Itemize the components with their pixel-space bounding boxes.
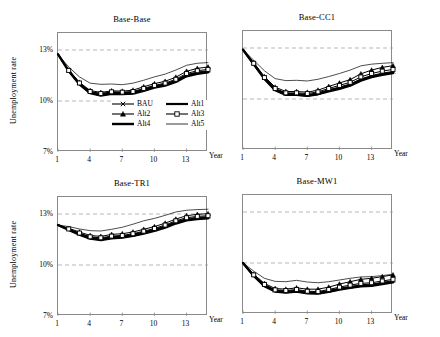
y-tick-label: 13% bbox=[23, 45, 53, 54]
series-marker-alt3 bbox=[284, 91, 288, 95]
series-marker-alt3 bbox=[262, 76, 266, 80]
series-marker-alt3 bbox=[110, 234, 114, 238]
x-tick-label: 1 bbox=[55, 319, 59, 328]
legend-label: Alt3 bbox=[191, 110, 213, 118]
y-tick-label: 7% bbox=[23, 311, 53, 320]
series-marker-alt3 bbox=[152, 83, 156, 87]
series-marker-alt3 bbox=[120, 233, 124, 237]
panel-title: Base-MW1 bbox=[242, 176, 392, 186]
series-marker-alt3 bbox=[370, 72, 374, 76]
series-marker-alt3 bbox=[370, 281, 374, 285]
series-marker-alt3 bbox=[262, 282, 266, 286]
legend-item-alt1[interactable]: Alt1 bbox=[165, 100, 213, 108]
series-marker-alt3 bbox=[67, 68, 71, 72]
legend-label: Alt4 bbox=[137, 120, 159, 128]
plot-canvas bbox=[58, 197, 208, 316]
x-tick-label: 4 bbox=[87, 319, 91, 328]
y-tick-label: 10% bbox=[23, 96, 53, 105]
x-tick-label: 13 bbox=[182, 319, 190, 328]
series-marker-alt3 bbox=[206, 67, 210, 71]
series-marker-alt3 bbox=[77, 231, 81, 235]
series-marker-alt3 bbox=[185, 216, 189, 220]
series-marker-alt3 bbox=[295, 91, 299, 95]
x-tick-label: 10 bbox=[335, 317, 343, 326]
legend-swatch-alt5 bbox=[165, 120, 189, 128]
x-tick-label: 13 bbox=[182, 155, 190, 164]
legend-item-bau[interactable]: BAU bbox=[111, 100, 159, 108]
legend-row: Alt2Alt3 bbox=[111, 110, 213, 118]
plot-area bbox=[57, 32, 207, 151]
series-marker-alt3 bbox=[163, 223, 167, 227]
legend-row: BAUAlt1 bbox=[111, 100, 213, 108]
series-marker-alt3 bbox=[174, 219, 178, 223]
plot-area bbox=[57, 196, 207, 315]
x-tick-label: 10 bbox=[335, 153, 343, 162]
series-marker-alt3 bbox=[67, 227, 71, 231]
series-marker-alt3 bbox=[252, 61, 256, 65]
series-line-alt5 bbox=[58, 54, 208, 84]
series-marker-alt3 bbox=[195, 214, 199, 218]
series-marker-alt3 bbox=[359, 75, 363, 79]
x-tick-label: 7 bbox=[119, 155, 123, 164]
series-marker-alt3 bbox=[305, 289, 309, 293]
series-marker-alt3 bbox=[337, 285, 341, 289]
series-marker-alt3 bbox=[359, 281, 363, 285]
x-tick-label: 1 bbox=[240, 153, 244, 162]
series-marker-alt3 bbox=[99, 92, 103, 96]
series-marker-alt3 bbox=[380, 279, 384, 283]
series-marker-alt3 bbox=[327, 86, 331, 90]
plot-area bbox=[242, 194, 392, 313]
series-marker-alt3 bbox=[316, 290, 320, 294]
legend-label: Alt2 bbox=[137, 110, 159, 118]
series-marker-alt3 bbox=[174, 77, 178, 81]
series-marker-alt3 bbox=[152, 226, 156, 230]
x-axis-label: Year bbox=[394, 313, 408, 322]
series-marker-alt3 bbox=[252, 273, 256, 277]
x-tick-label: 1 bbox=[55, 155, 59, 164]
plot-canvas bbox=[243, 31, 393, 150]
y-axis-label: Unemployment rate bbox=[9, 198, 18, 311]
series-marker-alt3 bbox=[295, 288, 299, 292]
series-marker-alt3 bbox=[99, 236, 103, 240]
series-marker-alt3 bbox=[327, 288, 331, 292]
legend-item-alt5[interactable]: Alt5 bbox=[165, 120, 213, 128]
x-tick-label: 7 bbox=[119, 319, 123, 328]
series-marker-alt3 bbox=[348, 80, 352, 84]
x-tick-label: 13 bbox=[367, 317, 375, 326]
series-marker-alt3 bbox=[206, 214, 210, 218]
series-marker-alt3 bbox=[391, 277, 395, 281]
panel-title: Base-CC1 bbox=[242, 12, 392, 22]
legend-swatch-alt1 bbox=[165, 100, 189, 108]
series-marker-alt3 bbox=[391, 67, 395, 71]
x-tick-label: 13 bbox=[367, 153, 375, 162]
y-tick-label: 7% bbox=[23, 147, 53, 156]
legend: BAUAlt1Alt2Alt3Alt4Alt5 bbox=[111, 100, 213, 130]
figure-root: Base-BaseUnemployment rate7%10%13%147101… bbox=[0, 0, 440, 337]
x-tick-label: 4 bbox=[272, 317, 276, 326]
series-marker-alt3 bbox=[77, 81, 81, 85]
y-tick-label: 10% bbox=[23, 260, 53, 269]
chart-panel-2: Base-CC11471013Year bbox=[220, 4, 440, 171]
plot-canvas bbox=[243, 195, 393, 314]
legend-swatch-alt3 bbox=[165, 110, 189, 118]
legend-item-alt3[interactable]: Alt3 bbox=[165, 110, 213, 118]
series-marker-alt3 bbox=[120, 90, 124, 94]
series-marker-alt3 bbox=[273, 86, 277, 90]
series-marker-alt3 bbox=[88, 89, 92, 93]
legend-row: Alt4Alt5 bbox=[111, 120, 213, 128]
series-marker-alt3 bbox=[348, 283, 352, 287]
chart-panel-3: Base-TR1Unemployment rate7%10%13%1471013… bbox=[0, 170, 220, 337]
series-marker-alt3 bbox=[195, 69, 199, 73]
chart-panel-1: Base-BaseUnemployment rate7%10%13%147101… bbox=[0, 6, 220, 173]
legend-item-alt2[interactable]: Alt2 bbox=[111, 110, 159, 118]
plot-canvas bbox=[58, 33, 208, 152]
legend-label: BAU bbox=[137, 100, 159, 108]
legend-label: Alt5 bbox=[191, 120, 213, 128]
legend-item-alt4[interactable]: Alt4 bbox=[111, 120, 159, 128]
panel-title: Base-Base bbox=[57, 14, 207, 24]
y-axis-label: Unemployment rate bbox=[9, 34, 18, 147]
x-tick-label: 7 bbox=[304, 153, 308, 162]
series-marker-alt3 bbox=[337, 83, 341, 87]
x-tick-label: 10 bbox=[150, 319, 158, 328]
series-marker-alt3 bbox=[284, 289, 288, 293]
